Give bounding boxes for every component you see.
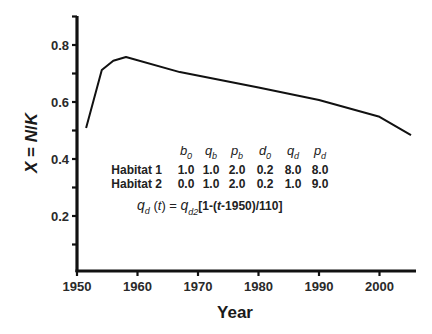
param-value: 1.0: [178, 163, 195, 177]
y-tick-label: 0.8: [51, 38, 69, 53]
parameter-table: b0qbpbd0qdpdHabitat 11.01.02.00.28.08.0H…: [111, 143, 328, 217]
line-chart: 0.20.40.60.8195019601970198019902000 b0q…: [0, 0, 432, 334]
axes: [76, 16, 417, 272]
habitat-label: Habitat 2: [111, 177, 162, 191]
y-tick-label: 0.2: [51, 209, 69, 224]
x-tick-label: 1960: [123, 279, 152, 294]
y-tick-label: 0.4: [51, 152, 70, 167]
param-value: 8.0: [312, 163, 329, 177]
param-value: 0.0: [178, 177, 195, 191]
formula: qd (t) = qd2[1-(t-1950)/110]: [137, 197, 282, 217]
x-tick-label: 1980: [244, 279, 273, 294]
param-value: 9.0: [312, 177, 329, 191]
axis-ticks: 0.20.40.60.8195019601970198019902000: [51, 17, 394, 295]
param-value: 0.2: [257, 163, 274, 177]
param-value: 2.0: [229, 177, 246, 191]
habitat-label: Habitat 1: [111, 163, 162, 177]
param-value: 1.0: [203, 163, 220, 177]
param-header: pd: [313, 143, 327, 161]
param-header: qd: [287, 143, 300, 161]
data-series: [86, 57, 411, 135]
param-header: qb: [205, 143, 217, 161]
x-tick-label: 2000: [365, 279, 394, 294]
param-value: 1.0: [203, 177, 220, 191]
x-tick-label: 1990: [305, 279, 334, 294]
param-header: pb: [230, 143, 243, 161]
param-header: b0: [180, 143, 192, 161]
param-value: 2.0: [229, 163, 246, 177]
y-axis-title: X = N/K: [22, 111, 41, 174]
param-value: 0.2: [257, 177, 274, 191]
param-value: 1.0: [285, 177, 302, 191]
series-line: [86, 57, 411, 135]
param-header: d0: [259, 143, 271, 161]
x-tick-label: 1970: [184, 279, 213, 294]
x-axis-title: Year: [217, 303, 253, 322]
x-tick-label: 1950: [63, 279, 92, 294]
param-value: 8.0: [285, 163, 302, 177]
y-tick-label: 0.6: [51, 95, 69, 110]
